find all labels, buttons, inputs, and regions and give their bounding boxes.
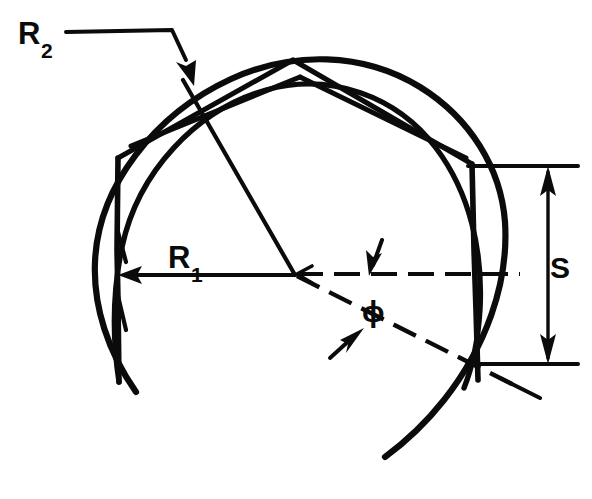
label-r2-base: R (18, 16, 40, 51)
label-r1-subscript: 1 (191, 263, 203, 286)
diagram-canvas: R 2 R 1 ϕ S (0, 0, 592, 499)
left-vertical-edge (117, 158, 119, 382)
label-s: S (550, 251, 570, 284)
technical-diagram-figure: R 2 R 1 ϕ S (0, 0, 592, 499)
chord-apex-to-right-secondary (300, 77, 466, 158)
angle-ray-tail (500, 378, 540, 398)
radius-r2-line (183, 80, 295, 275)
phi-lower-arrowhead (340, 328, 364, 353)
chord-left-to-apex (118, 60, 293, 158)
label-r2-subscript: 2 (41, 39, 53, 62)
label-phi: ϕ (362, 295, 385, 328)
outer-arc-r2 (95, 59, 506, 457)
label-r1-base: R (168, 240, 190, 275)
r2-leader-line (66, 30, 186, 60)
